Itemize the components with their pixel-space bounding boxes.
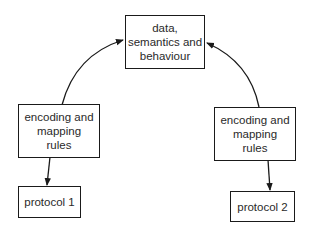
node-label: protocol 2 [237, 200, 288, 214]
node-label-line: data, [152, 21, 178, 35]
node-protocol-2: protocol 2 [230, 191, 295, 222]
arrow-right-rules-to-protocol2 [268, 160, 270, 190]
node-label-line: rules [47, 138, 72, 152]
node-label-line: encoding and [220, 113, 289, 127]
node-protocol-1: protocol 1 [18, 186, 81, 218]
node-label-line: rules [243, 141, 268, 155]
arrow-left-rules-to-core [62, 40, 123, 105]
node-encoding-mapping-rules-right: encoding and mapping rules [214, 107, 296, 161]
arrow-left-rules-to-protocol1 [47, 157, 50, 185]
node-label: protocol 1 [24, 195, 75, 209]
node-label-line: encoding and [24, 110, 93, 124]
node-encoding-mapping-rules-left: encoding and mapping rules [18, 104, 100, 158]
node-data-semantics-behaviour: data, semantics and behaviour [125, 15, 205, 69]
node-label-line: behaviour [140, 49, 191, 63]
node-label-line: mapping [233, 127, 277, 141]
arrow-right-rules-to-core [207, 43, 259, 107]
node-label-line: mapping [37, 124, 81, 138]
node-label-line: semantics and [128, 35, 202, 49]
